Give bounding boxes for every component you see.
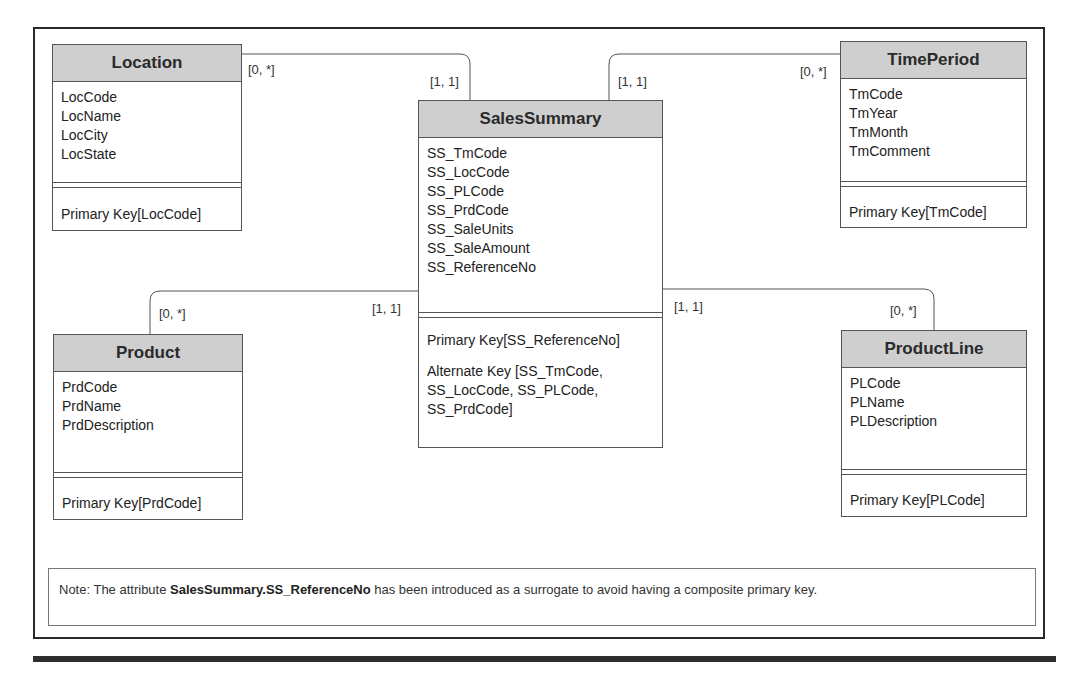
primary-key: Primary Key[TmCode] — [849, 203, 1020, 222]
attribute: PLName — [850, 393, 1018, 412]
attribute: LocCity — [61, 126, 233, 145]
cardinality-label: [1, 1] — [372, 301, 401, 316]
attribute-list: PLCode PLName PLDescription — [842, 368, 1026, 431]
attribute: SS_ReferenceNo — [427, 258, 654, 277]
attribute: PrdName — [62, 397, 234, 416]
separator — [419, 312, 662, 318]
entity-productline[interactable]: ProductLine PLCode PLName PLDescription … — [841, 330, 1027, 517]
entity-title: TimePeriod — [841, 42, 1026, 79]
cardinality-label: [0, *] — [890, 303, 917, 318]
alternate-key: SS_PrdCode] — [427, 400, 656, 419]
attribute: SS_SaleAmount — [427, 239, 654, 258]
key-list: Primary Key[SS_ReferenceNo] Alternate Ke… — [427, 331, 656, 419]
attribute: LocName — [61, 107, 233, 126]
note-prefix: Note: The attribute — [59, 582, 170, 597]
attribute: LocCode — [61, 88, 233, 107]
entity-product[interactable]: Product PrdCode PrdName PrdDescription P… — [53, 334, 243, 520]
attribute-list: PrdCode PrdName PrdDescription — [54, 372, 242, 435]
cardinality-label: [1, 1] — [430, 74, 459, 89]
cardinality-label: [1, 1] — [618, 74, 647, 89]
bottom-rule — [33, 656, 1056, 662]
attribute: SS_PrdCode — [427, 201, 654, 220]
note-highlight: SalesSummary.SS_ReferenceNo — [170, 582, 371, 597]
key-list: Primary Key[PLCode] — [850, 491, 1020, 510]
attribute: SS_SaleUnits — [427, 220, 654, 239]
primary-key: Primary Key[SS_ReferenceNo] — [427, 331, 656, 350]
attribute: TmMonth — [849, 123, 1018, 142]
cardinality-label: [0, *] — [800, 64, 827, 79]
entity-title: SalesSummary — [419, 101, 662, 138]
separator — [54, 472, 242, 478]
diagram-note: Note: The attribute SalesSummary.SS_Refe… — [48, 568, 1036, 626]
attribute-list: SS_TmCode SS_LocCode SS_PLCode SS_PrdCod… — [419, 138, 662, 277]
entity-salessummary[interactable]: SalesSummary SS_TmCode SS_LocCode SS_PLC… — [418, 100, 663, 448]
key-list: Primary Key[PrdCode] — [62, 494, 236, 513]
cardinality-label: [1, 1] — [674, 299, 703, 314]
attribute: TmCode — [849, 85, 1018, 104]
attribute: PrdDescription — [62, 416, 234, 435]
attribute-list: LocCode LocName LocCity LocState — [53, 82, 241, 164]
attribute: TmComment — [849, 142, 1018, 161]
entity-timeperiod[interactable]: TimePeriod TmCode TmYear TmMonth TmComme… — [840, 41, 1027, 228]
alternate-key: Alternate Key [SS_TmCode, — [427, 362, 656, 381]
separator — [53, 182, 241, 188]
attribute: PLDescription — [850, 412, 1018, 431]
key-list: Primary Key[TmCode] — [849, 203, 1020, 222]
attribute: LocState — [61, 145, 233, 164]
entity-title: Product — [54, 335, 242, 372]
attribute: PrdCode — [62, 378, 234, 397]
separator — [841, 181, 1026, 187]
attribute: SS_PLCode — [427, 182, 654, 201]
entity-location[interactable]: Location LocCode LocName LocCity LocStat… — [52, 44, 242, 231]
note-suffix: has been introduced as a surrogate to av… — [371, 582, 817, 597]
entity-title: Location — [53, 45, 241, 82]
cardinality-label: [0, *] — [248, 62, 275, 77]
key-list: Primary Key[LocCode] — [61, 205, 235, 224]
attribute-list: TmCode TmYear TmMonth TmComment — [841, 79, 1026, 161]
cardinality-label: [0, *] — [159, 306, 186, 321]
attribute: SS_LocCode — [427, 163, 654, 182]
alternate-key: SS_LocCode, SS_PLCode, — [427, 381, 656, 400]
separator — [842, 469, 1026, 475]
primary-key: Primary Key[PrdCode] — [62, 494, 236, 513]
attribute: SS_TmCode — [427, 144, 654, 163]
attribute: PLCode — [850, 374, 1018, 393]
primary-key: Primary Key[LocCode] — [61, 205, 235, 224]
entity-title: ProductLine — [842, 331, 1026, 368]
attribute: TmYear — [849, 104, 1018, 123]
primary-key: Primary Key[PLCode] — [850, 491, 1020, 510]
